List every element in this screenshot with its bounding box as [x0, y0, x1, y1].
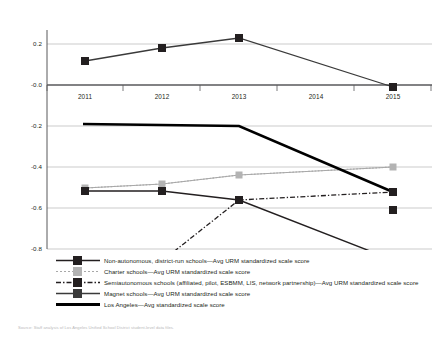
x-tick-label-2014: 2014: [296, 93, 336, 100]
marker-non-autonomous-2015: [389, 206, 397, 214]
legend-label-non-autonomous: Non-autonomous, district-run schools—Avg…: [104, 257, 310, 264]
legend-key-dash-dot-dark-square-icon: [56, 277, 100, 288]
y-tick-label-2: -0.2: [16, 122, 42, 129]
y-tick-label-1: -0.0: [16, 81, 42, 88]
legend-item-los-angeles: Los Angeles—Avg standardized scale score: [56, 299, 225, 310]
legend-item-charter: Charter schools—Avg URM standardized sca…: [56, 266, 250, 277]
x-tick-label-2015: 2015: [373, 93, 413, 100]
legend-item-semiautonomous: Semiautonomous schools (affiliated, pilo…: [56, 277, 418, 288]
legend-label-semiautonomous: Semiautonomous schools (affiliated, pilo…: [104, 279, 418, 286]
series-semiautonomous-schools: [81, 188, 397, 250]
legend-key-solid-dark-square-icon: [56, 255, 100, 266]
legend-item-non-autonomous: Non-autonomous, district-run schools—Avg…: [56, 255, 310, 266]
chart-legend: Non-autonomous, district-run schools—Avg…: [0, 255, 442, 317]
legend-key-solid-thick-icon: [56, 299, 100, 310]
legend-label-los-angeles: Los Angeles—Avg standardized scale score: [104, 301, 225, 308]
x-tick-label-2013: 2013: [219, 93, 259, 100]
chart-plot-area: 0.2 -0.0 -0.2 -0.4 -0.6 -0.8 2011 2012 2…: [0, 0, 442, 250]
y-tick-label-0: 0.2: [16, 40, 42, 47]
y-tick-label-4: -0.6: [16, 204, 42, 211]
series-los-angeles: [83, 124, 393, 192]
legend-key-dotted-gray-square-icon: [56, 266, 100, 277]
zero-axis-line: [47, 85, 432, 91]
gridlines: [47, 44, 432, 249]
figure-container: 0.2 -0.0 -0.2 -0.4 -0.6 -0.8 2011 2012 2…: [0, 0, 442, 337]
series-magnet-schools: [81, 34, 397, 91]
legend-key-solid-dark-square-magnet-icon: [56, 288, 100, 299]
x-tick-label-2011: 2011: [65, 93, 105, 100]
y-tick-label-5: -0.8: [16, 245, 42, 252]
x-tick-label-2012: 2012: [142, 93, 182, 100]
series-charter-schools: [82, 164, 397, 192]
legend-label-magnet: Magnet schools—Avg URM standardized scal…: [104, 290, 250, 297]
legend-label-charter: Charter schools—Avg URM standardized sca…: [104, 268, 250, 275]
source-note: Source: Staff analysis of Los Angeles Un…: [18, 325, 438, 330]
y-tick-label-3: -0.4: [16, 163, 42, 170]
legend-item-magnet: Magnet schools—Avg URM standardized scal…: [56, 288, 250, 299]
line-chart-svg: [0, 0, 442, 250]
